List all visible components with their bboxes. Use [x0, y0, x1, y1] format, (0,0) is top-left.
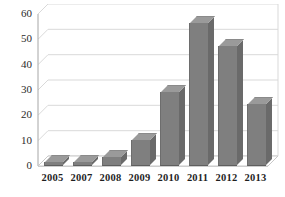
- x-tick-2013: 2013: [239, 172, 273, 183]
- bar-face: [102, 157, 121, 166]
- y-tick-10: 10: [8, 135, 32, 146]
- bar-chart: 0 10 20 30 40 50 60 2005 2007 2008 2009 …: [0, 0, 285, 197]
- y-tick-30: 30: [8, 84, 32, 95]
- x-axis-labels: 2005 2007 2008 2009 2010 2011 2012 2013: [38, 172, 278, 190]
- bar-face: [189, 23, 208, 166]
- bar-2010[interactable]: [160, 0, 178, 197]
- bar-face: [160, 92, 179, 166]
- bar-side-face: [265, 98, 272, 166]
- bar-2007[interactable]: [73, 0, 91, 197]
- bar-2009[interactable]: [131, 0, 149, 197]
- bar-2013[interactable]: [247, 0, 265, 197]
- bar-face: [131, 140, 150, 166]
- bar-2005[interactable]: [44, 0, 62, 197]
- bar-2008[interactable]: [102, 0, 120, 197]
- bar-2012[interactable]: [218, 0, 236, 197]
- bar-face: [44, 162, 63, 166]
- y-tick-20: 20: [8, 109, 32, 120]
- y-tick-50: 50: [8, 33, 32, 44]
- bar-series: [38, 0, 278, 197]
- bar-face: [218, 46, 237, 166]
- bar-2011[interactable]: [189, 0, 207, 197]
- y-tick-40: 40: [8, 59, 32, 70]
- y-tick-60: 60: [8, 8, 32, 19]
- bar-face: [247, 104, 266, 166]
- y-tick-0: 0: [8, 160, 32, 171]
- bar-side-face: [207, 17, 214, 166]
- bar-side-face: [236, 40, 243, 166]
- bar-face: [73, 162, 92, 166]
- bar-side-face: [178, 86, 185, 166]
